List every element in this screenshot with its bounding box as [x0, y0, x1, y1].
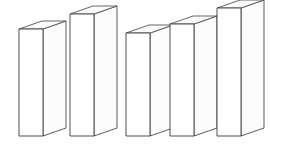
bar-2-front-face [70, 14, 94, 136]
bar-chart-3d [0, 0, 290, 145]
bar-1[interactable] [19, 21, 66, 136]
bar-5[interactable] [217, 0, 264, 136]
bar-2-side-face [94, 6, 117, 136]
bar-5-front-face [217, 8, 241, 136]
bar-3-front-face [126, 33, 150, 136]
bar-4-side-face [194, 16, 217, 136]
bar-4-front-face [170, 24, 194, 136]
figure-root [0, 0, 290, 145]
bar-5-side-face [241, 0, 264, 136]
bar-3[interactable] [126, 25, 173, 136]
bar-2[interactable] [70, 6, 117, 136]
bar-4[interactable] [170, 16, 217, 136]
bars-group [19, 0, 264, 136]
bar-1-front-face [19, 29, 43, 136]
bar-1-side-face [43, 21, 66, 136]
